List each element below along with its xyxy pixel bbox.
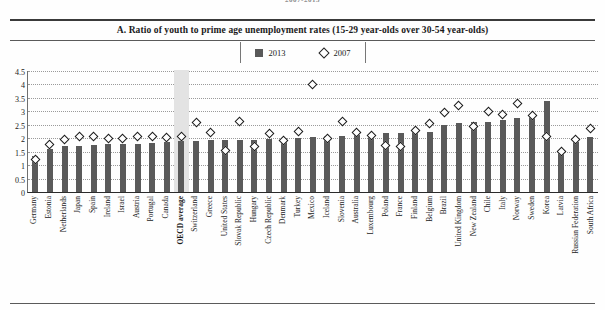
- x-axis-label-cell: Brazil: [437, 194, 452, 302]
- x-axis-tick-label: Norway: [513, 196, 521, 220]
- x-axis-label-cell: Iceland: [320, 194, 335, 302]
- x-axis-label-cell: Australia: [349, 194, 364, 302]
- x-axis-label-cell: Finland: [408, 194, 423, 302]
- x-axis-tick-label: South Africa: [587, 196, 595, 234]
- x-axis-tick-label: Latvia: [557, 196, 565, 215]
- chart-column: [408, 71, 423, 192]
- chart-title: A. Ratio of youth to prime age unemploym…: [10, 22, 595, 38]
- chart-column: [452, 71, 467, 192]
- chart-column: [364, 71, 379, 192]
- x-axis-tick-label: France: [396, 196, 404, 216]
- diamond-2007: [337, 117, 347, 127]
- x-axis-tick-label: Italy: [499, 196, 507, 210]
- x-axis-label-cell: Hungary: [247, 194, 262, 302]
- bar-2013: [529, 114, 535, 192]
- x-axis-tick-label: Germany: [30, 196, 38, 224]
- x-axis-tick-label: Iceland: [323, 196, 331, 218]
- chart-column: [247, 71, 262, 192]
- x-axis-label-cell: Japan: [71, 194, 86, 302]
- y-axis-tick-label: 1: [21, 162, 25, 171]
- x-axis-label-cell: Poland: [378, 194, 393, 302]
- x-axis-tick-label: Canada: [162, 196, 170, 219]
- bar-2013: [295, 138, 301, 192]
- diamond-2007: [147, 132, 157, 142]
- bar-2013: [427, 132, 433, 193]
- chart-column: [349, 71, 364, 192]
- x-axis-label-cell: Russian Federation: [569, 194, 584, 302]
- diamond-2007: [439, 108, 449, 118]
- bar-2013: [456, 123, 462, 192]
- x-axis-label-cell: Norway: [510, 194, 525, 302]
- chart-column: [583, 71, 598, 192]
- chart-column: [43, 71, 58, 192]
- chart-column: [496, 71, 511, 192]
- bar-2013: [281, 138, 287, 192]
- bar-2013: [105, 144, 111, 192]
- bar-2013: [339, 136, 345, 192]
- diamond-2007: [308, 79, 318, 89]
- chart-column: [174, 71, 189, 192]
- bar-2013: [193, 141, 199, 192]
- chart-column: [116, 71, 131, 192]
- chart-column: [335, 71, 350, 192]
- x-axis-label-cell: South Africa: [583, 194, 598, 302]
- bar-2013: [354, 135, 360, 192]
- legend-item-2013: 2013: [255, 48, 286, 58]
- x-axis-tick-label: Brazil: [440, 196, 448, 214]
- x-axis-tick-label: Luxembourg: [367, 196, 375, 235]
- bar-2013: [164, 142, 170, 192]
- x-axis-tick-label: Russian Federation: [572, 196, 580, 254]
- diamond-2007: [264, 128, 274, 138]
- y-axis-tick-label: 2: [21, 135, 25, 144]
- x-axis-label-cell: Mexico: [305, 194, 320, 302]
- diamond-2007: [586, 124, 596, 134]
- bar-2013: [47, 149, 53, 192]
- chart-column: [554, 71, 569, 192]
- x-axis-label-cell: Slovenia: [334, 194, 349, 302]
- open-diamond-icon: [318, 47, 329, 58]
- bar-2013: [310, 137, 316, 192]
- filled-square-icon: [255, 49, 263, 57]
- x-axis-tick-label: Mexico: [308, 196, 316, 219]
- x-axis-tick-label: Israel: [118, 196, 126, 213]
- diamond-2007: [425, 118, 435, 128]
- x-axis-label-cell: Estonia: [42, 194, 57, 302]
- chart-column: [393, 71, 408, 192]
- figure-page: 2007-2013 A. Ratio of youth to prime age…: [0, 0, 605, 310]
- x-axis-label-cell: Italy: [496, 194, 511, 302]
- diamond-2007: [60, 135, 70, 145]
- diamond-2007: [498, 109, 508, 119]
- chart-column: [203, 71, 218, 192]
- x-axis-tick-label: Japan: [74, 196, 82, 213]
- x-axis-tick-label: Ireland: [104, 196, 112, 217]
- diamond-2007: [235, 117, 245, 127]
- bar-2013: [178, 141, 184, 192]
- x-axis-tick-label: New Zealand: [470, 196, 478, 236]
- chart-column: [466, 71, 481, 192]
- x-axis-label-cell: Spain: [86, 194, 101, 302]
- y-axis-tick-label: 3.5: [15, 94, 25, 103]
- bottom-rule: [10, 303, 595, 304]
- chart-column: [525, 71, 540, 192]
- chart-column: [306, 71, 321, 192]
- x-axis-label-cell: Korea: [539, 194, 554, 302]
- x-axis-tick-label: Spain: [89, 196, 97, 213]
- plot-area: 00.511.522.533.544.5: [27, 71, 598, 193]
- x-axis-tick-label: Sweden: [528, 196, 536, 220]
- chart-column: [218, 71, 233, 192]
- x-axis-label-cell: Switzerland: [188, 194, 203, 302]
- x-axis-tick-label: Poland: [382, 196, 390, 217]
- diamond-2007: [89, 132, 99, 142]
- x-axis-tick-label: Estonia: [45, 196, 53, 219]
- chart-column: [291, 71, 306, 192]
- diamond-2007: [512, 98, 522, 108]
- x-axis-label-cell: Belgium: [422, 194, 437, 302]
- bar-2013: [485, 122, 491, 192]
- y-axis-tick-label: 0.5: [15, 175, 25, 184]
- x-axis-tick-label: Finland: [411, 196, 419, 219]
- bar-2013: [149, 143, 155, 192]
- title-rule: [10, 40, 595, 41]
- chart-column: [72, 71, 87, 192]
- x-axis-tick-label: Australia: [352, 196, 360, 224]
- y-axis-tick-label: 1.5: [15, 148, 25, 157]
